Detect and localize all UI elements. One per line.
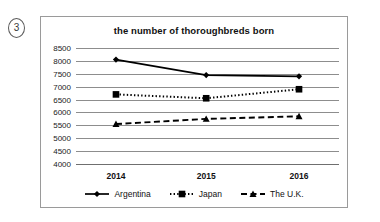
plot-area: 8500800075007000650060005500500045004000… [76,48,339,164]
y-tick-label: 4000 [53,160,71,169]
legend-label: Argentina [114,189,150,199]
y-tick-label: 6000 [53,108,71,117]
series-plot [76,48,339,164]
legend-swatch-triangle-icon [240,189,266,199]
y-tick-label: 8500 [53,44,71,53]
y-tick-label: 7000 [53,82,71,91]
x-tick-label: 2016 [290,171,309,181]
y-tick-label: 6500 [53,95,71,104]
legend-swatch-diamond-icon [84,189,110,199]
legend-swatch-square-icon [169,189,195,199]
question-number-badge: 3 [8,18,25,38]
legend-label: Japan [199,189,222,199]
legend-entry-the-u-k[interactable]: The U.K. [240,189,304,199]
gridline [76,164,339,165]
legend-entry-japan[interactable]: Japan [169,189,222,199]
x-tick-label: 2015 [197,171,216,181]
series-the-u-k [112,113,302,127]
y-tick-label: 8000 [53,56,71,65]
y-tick-label: 4500 [53,147,71,156]
series-japan [113,86,303,102]
y-tick-label: 7500 [53,69,71,78]
y-tick-label: 5500 [53,121,71,130]
chart-legend: ArgentinaJapanThe U.K. [41,189,347,199]
chart-frame: the number of thoroughbreds born 8500800… [40,16,348,208]
chart-title: the number of thoroughbreds born [41,25,347,36]
series-argentina [113,57,302,80]
x-tick-label: 2014 [107,171,126,181]
y-tick-label: 5000 [53,134,71,143]
legend-label: The U.K. [270,189,304,199]
legend-entry-argentina[interactable]: Argentina [84,189,150,199]
